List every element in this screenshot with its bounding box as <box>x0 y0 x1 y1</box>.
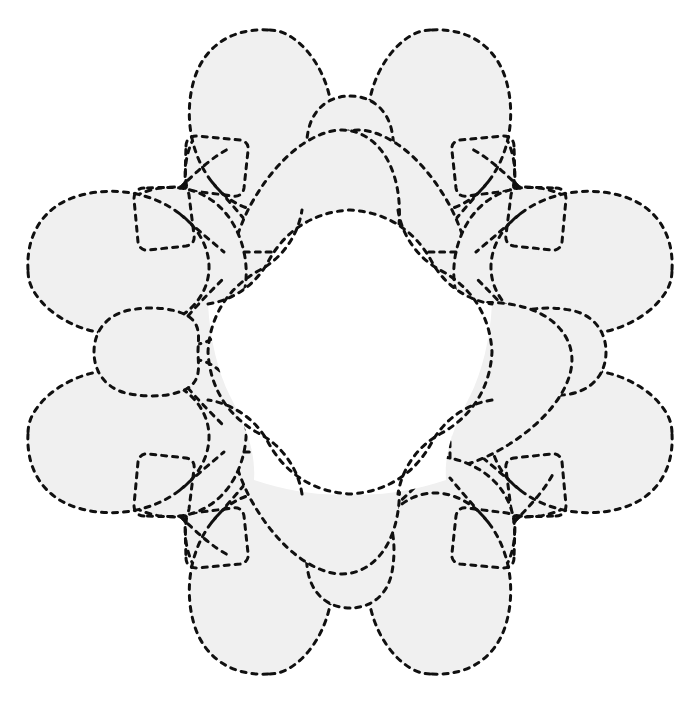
pattern-canvas <box>0 0 699 703</box>
wreath-pattern-svg <box>0 0 699 703</box>
